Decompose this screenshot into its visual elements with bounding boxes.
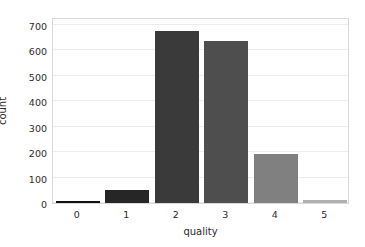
- y-axis-tick-label: 200: [5, 148, 47, 159]
- y-axis-tick-label: 300: [5, 122, 47, 133]
- plot-area: [52, 18, 349, 204]
- y-axis-tick-label: 700: [5, 20, 47, 31]
- y-axis-tick-label: 100: [5, 173, 47, 184]
- x-axis-label: quality: [52, 226, 349, 237]
- y-axis-tick-label: 0: [5, 199, 47, 210]
- chart-figure: count 0100200300400500600700 012345 qual…: [0, 0, 365, 247]
- y-axis-tick-label: 500: [5, 71, 47, 82]
- bar-2: [155, 31, 199, 203]
- bar-4: [254, 154, 298, 203]
- y-axis-tick-label: 600: [5, 46, 47, 57]
- bar-5: [303, 200, 347, 203]
- y-axis-tick-label: 400: [5, 97, 47, 108]
- bar-3: [204, 41, 248, 203]
- bars-container: [53, 19, 348, 203]
- bar-0: [56, 201, 100, 203]
- bar-1: [105, 190, 149, 203]
- x-axis-tick-label: 5: [294, 209, 354, 220]
